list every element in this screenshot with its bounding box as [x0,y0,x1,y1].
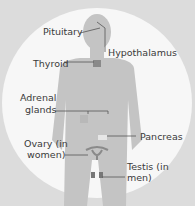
endocrine-diagram: Pituitary Hypothalamus Thyroid Adrenal g… [0,0,195,206]
label-ovary-line2: women) [27,149,65,160]
label-thyroid: Thyroid [33,58,69,69]
label-adrenal-line2: glands [25,104,57,115]
label-testis-line2: men) [127,172,152,183]
label-adrenal-line1: Adrenal [20,92,56,103]
label-testis-line1: Testis (in [127,161,169,172]
thyroid-mark [93,60,101,67]
label-pancreas: Pancreas [140,131,183,142]
label-pituitary: Pituitary [43,26,83,37]
diagram-canvas [0,0,195,206]
label-hypothalamus: Hypothalamus [108,47,177,58]
testis-mark-l [91,172,95,178]
pancreas-mark [98,135,107,140]
label-ovary-line1: Ovary (in [24,138,68,149]
